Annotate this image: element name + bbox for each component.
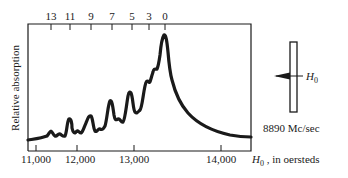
bottom-ticks <box>36 145 221 151</box>
frequency-label: 8890 Mc/sec <box>263 122 320 134</box>
top-tick-label: 5 <box>129 10 135 22</box>
field-diagram: H0 8890 Mc/sec <box>263 42 320 134</box>
x-tick-labels: 11,000 12,000 13,000 14,000 <box>21 153 237 165</box>
x-tick-label: 14,000 <box>206 153 237 165</box>
top-tick-label: 0 <box>162 10 168 22</box>
field-label: H0 <box>305 70 318 85</box>
top-tick-labels: 13 11 9 7 5 3 0 <box>46 10 169 22</box>
top-ticks <box>51 24 165 30</box>
x-axis-label: H0 , in oersteds <box>251 153 320 168</box>
top-tick-label: 9 <box>88 10 94 22</box>
x-tick-label: 13,000 <box>119 153 150 165</box>
sample-slab <box>290 42 297 112</box>
top-tick-label: 7 <box>109 10 115 22</box>
top-tick-label: 11 <box>65 10 76 22</box>
x-tick-label: 12,000 <box>65 153 96 165</box>
absorption-chart: 13 11 9 7 5 3 0 11,000 12,000 13,000 14,… <box>0 0 348 178</box>
top-tick-label: 3 <box>146 10 152 22</box>
top-tick-label: 13 <box>46 10 58 22</box>
x-tick-label: 11,000 <box>21 153 51 165</box>
arrow-left-icon <box>274 73 290 80</box>
y-axis-label: Relative absorption <box>9 45 21 131</box>
absorption-curve <box>28 35 251 140</box>
